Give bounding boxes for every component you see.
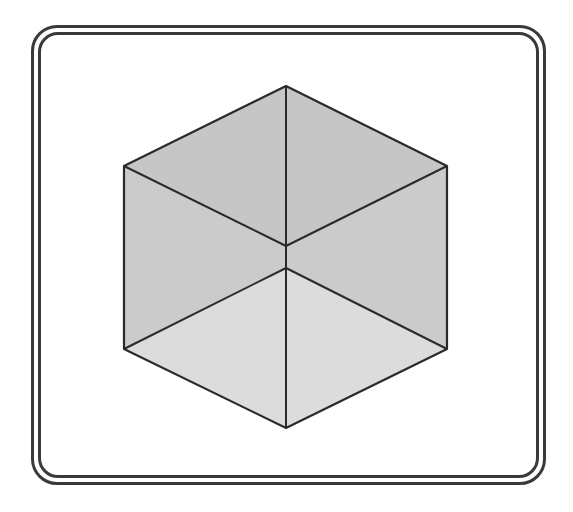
hexagon-cube-figure — [0, 0, 573, 512]
